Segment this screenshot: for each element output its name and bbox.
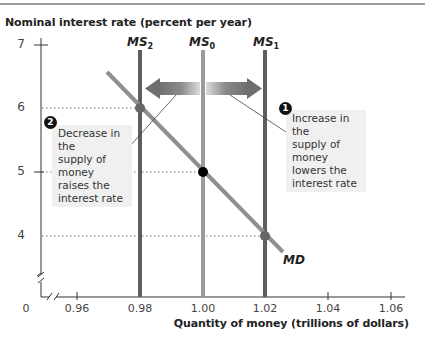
- ms1-label: MS1: [253, 35, 279, 51]
- x-tick-label-1.02: 1.02: [245, 302, 285, 315]
- x-tick-label-0.98: 0.98: [120, 302, 160, 315]
- annotation-2-box: Decrease in the supply of money raises t…: [52, 125, 132, 207]
- annotation-1-badge: 1: [279, 102, 292, 115]
- y-tick-label-4: 4: [5, 228, 25, 242]
- point-ms0-equilibrium: [198, 167, 208, 177]
- leader-line-1: [230, 95, 286, 132]
- point-ms1-equilibrium: [260, 231, 270, 241]
- y-tick-label-5: 5: [5, 164, 25, 178]
- ms0-label: MS0: [189, 35, 215, 51]
- x-axis: [41, 292, 405, 300]
- y-axis: [34, 38, 48, 297]
- shift-arrow-right: [206, 78, 262, 99]
- x-tick-label-1.04: 1.04: [308, 302, 348, 315]
- y-tick-label-6: 6: [5, 100, 25, 114]
- md-label: MD: [283, 253, 305, 267]
- shift-arrow-left: [145, 78, 200, 99]
- x-tick-label-0.96: 0.96: [57, 302, 97, 315]
- md-curve: [107, 72, 283, 252]
- point-ms2-equilibrium: [135, 103, 145, 113]
- x-tick-label-1.00: 1.00: [183, 302, 223, 315]
- ms2-label: MS2: [127, 35, 153, 51]
- x-tick-label-1.06: 1.06: [371, 302, 411, 315]
- x-axis-title: Quantity of money (trillions of dollars): [174, 317, 409, 330]
- y-tick-label-7: 7: [5, 37, 25, 51]
- annotation-1-box: Increase in the supply of money lowers t…: [286, 110, 366, 192]
- x-tick-label-0: 0: [6, 302, 46, 315]
- annotation-2-badge: 2: [44, 116, 57, 129]
